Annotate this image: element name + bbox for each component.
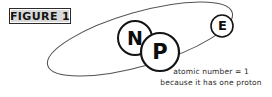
figure-label-text: FIGURE 1 [10, 9, 70, 23]
figure-label-box: FIGURE 1 [9, 8, 71, 24]
caption-line-1: atomic number = 1 [150, 66, 272, 77]
caption-line-2: because it has one proton [150, 77, 272, 88]
figure-caption: atomic number = 1 because it has one pro… [150, 66, 272, 88]
proton-label: P [140, 42, 180, 63]
electron-label: E [211, 19, 234, 32]
figure-screenshot: FIGURE 1 N P E atomic number = 1 because… [0, 0, 272, 97]
